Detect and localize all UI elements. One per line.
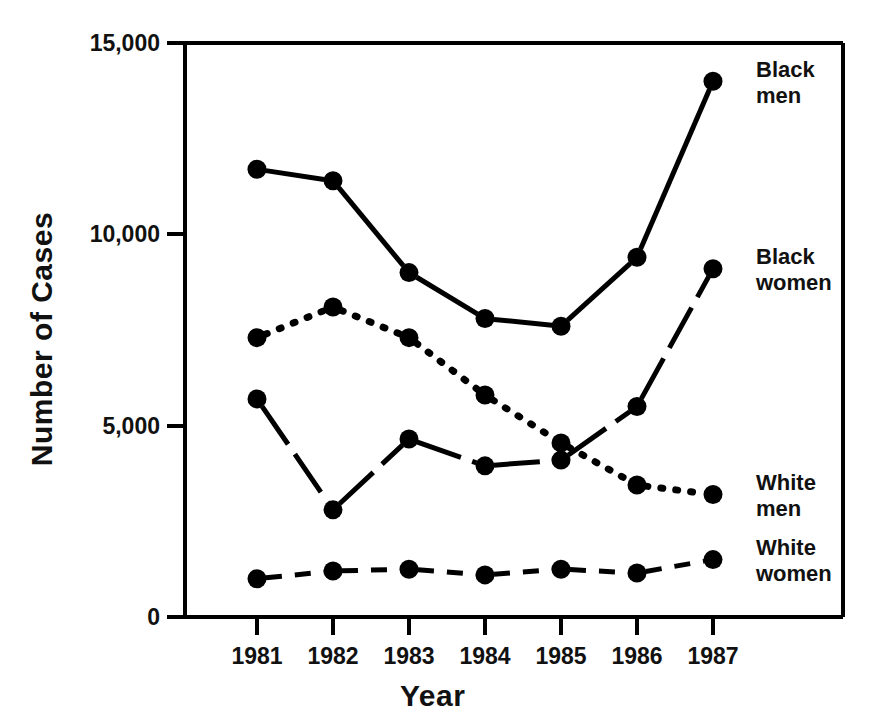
data-point-marker [248,328,267,347]
data-point-marker [628,475,647,494]
data-point-marker [476,456,495,475]
y-tick-label-15000: 15,000 [0,30,160,57]
data-point-marker [324,562,343,581]
data-point-marker [704,72,723,91]
data-point-marker [476,565,495,584]
data-point-marker [324,171,343,190]
data-point-marker [476,309,495,328]
data-point-marker [324,298,343,317]
y-tick-label-0: 0 [0,604,160,631]
data-point-marker [248,160,267,179]
series-label-black-men: Black men [756,57,815,108]
y-tick-label-5000: 5,000 [0,413,160,440]
data-point-marker [628,397,647,416]
x-tick-label-1987: 1987 [663,643,763,670]
series-label-black-women: Black women [756,244,832,295]
data-point-marker [552,560,571,579]
x-axis-title: Year [400,679,465,713]
data-point-marker [704,550,723,569]
data-point-marker [628,563,647,582]
data-point-marker [552,451,571,470]
series-label-white-women: White women [756,535,832,586]
data-point-marker [704,259,723,278]
y-tick-label-10000: 10,000 [0,221,160,248]
chart-figure: 15,000 10,000 5,000 0 1981 1982 1983 198… [0,0,881,728]
data-point-marker [248,389,267,408]
data-point-marker [400,328,419,347]
y-axis-title: Number of Cases [25,209,59,469]
data-point-marker [400,560,419,579]
data-point-marker [400,430,419,449]
data-point-marker [704,485,723,504]
series-label-white-men: White men [756,470,816,521]
data-point-marker [248,569,267,588]
data-point-marker [400,263,419,282]
data-point-marker [628,248,647,267]
data-point-marker [324,500,343,519]
data-point-marker [552,317,571,336]
data-point-marker [476,386,495,405]
data-point-marker [552,433,571,452]
